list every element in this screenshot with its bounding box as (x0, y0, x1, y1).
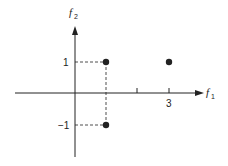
y-axis-label-subscript: 2 (74, 13, 78, 20)
y-tick-label-neg1: −1 (58, 120, 70, 131)
x-axis-label-subscript: 1 (211, 93, 215, 100)
data-point (166, 59, 172, 65)
y-tick-label-1: 1 (63, 57, 69, 68)
data-point (103, 59, 109, 65)
y-axis-arrow-icon (72, 26, 78, 35)
data-point (103, 122, 109, 128)
diagram-canvas: 3 1 −1 f 1 f 2 (0, 0, 228, 166)
x-tick-label-3: 3 (166, 98, 172, 109)
x-axis-arrow-icon (195, 90, 204, 96)
